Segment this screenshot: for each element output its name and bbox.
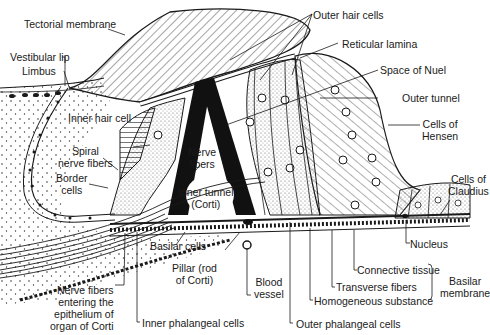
label-nerve-fibers: Nerve fibers — [188, 146, 216, 170]
label-reticular-lamina: Reticular lamina — [342, 38, 417, 50]
label-spiral-nerve-fibers: Spiral nerve fibers — [58, 145, 113, 169]
label-cells-of-hensen: Cells of Hensen — [422, 118, 458, 142]
label-limbus: Limbus — [22, 65, 56, 77]
label-transverse-fibers: Transverse fibers — [336, 281, 417, 293]
label-vestibular-lip: Vestibular lip — [10, 51, 70, 63]
label-pillar: Pillar (rod of Corti) — [172, 262, 217, 286]
label-inner-tunnel: Inner tunnel (Corti) — [178, 186, 233, 210]
label-homogeneous-substance: Homogeneous substance — [314, 295, 433, 307]
label-inner-phalangeal-cells: Inner phalangeal cells — [142, 317, 244, 329]
label-basilar-membrane: Basilar membrane — [440, 275, 490, 299]
label-outer-tunnel: Outer tunnel — [402, 92, 460, 104]
label-space-of-nuel: Space of Nuel — [380, 64, 446, 76]
label-outer-hair-cells: Outer hair cells — [313, 9, 384, 21]
label-blood-vessel: Blood vessel — [254, 276, 284, 300]
label-inner-hair-cell: Inner hair cell — [68, 112, 131, 124]
label-nerve-fibers-entering: Nerve fibers entering the epithelium of … — [50, 284, 114, 332]
label-tectorial-membrane: Tectorial membrane — [24, 18, 116, 30]
label-border-cells: Border cells — [56, 172, 88, 196]
label-basilar-cells: Basilar cells — [150, 240, 206, 252]
label-connective-tissue: Connective tissue — [357, 264, 440, 276]
label-cells-of-claudius: Cells of Claudius — [448, 173, 489, 197]
label-nucleus: Nucleus — [410, 238, 448, 250]
label-outer-phalangeal-cells: Outer phalangeal cells — [296, 318, 400, 330]
